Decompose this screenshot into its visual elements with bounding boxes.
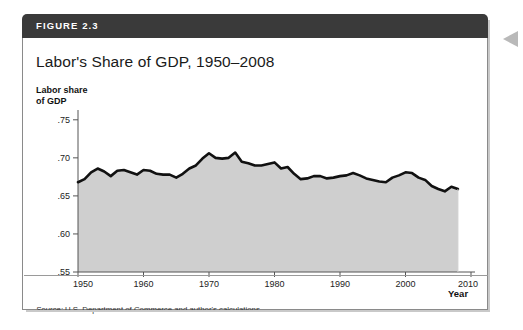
x-tick-label: 2000 [395, 279, 415, 289]
chart-area-fill [78, 153, 458, 272]
source-divider [24, 275, 488, 276]
figure-card: FIGURE 2.3 Labor's Share of GDP, 1950–20… [22, 14, 488, 310]
x-tick-label: 1970 [199, 279, 219, 289]
figure-header-band: FIGURE 2.3 [22, 14, 488, 38]
card-shadow-bottom [26, 310, 490, 312]
x-tick-label: 1960 [133, 279, 153, 289]
x-axis-title: Year [448, 288, 468, 299]
figure-number-label: FIGURE 2.3 [36, 20, 99, 31]
y-tick-label: .70 [57, 153, 70, 163]
plot-area: .55.60.65.70.751950196019701980199020002… [23, 38, 489, 310]
figure-body: Labor's Share of GDP, 1950–2008 Labor sh… [22, 38, 488, 310]
y-tick-label: .60 [57, 229, 70, 239]
page-next-arrow-icon[interactable] [503, 31, 518, 47]
x-tick-label: 1990 [330, 279, 350, 289]
x-tick-label: 1950 [73, 279, 93, 289]
card-shadow-right [488, 20, 490, 312]
labor-share-chart: .55.60.65.70.751950196019701980199020002… [23, 38, 489, 310]
y-tick-label: .65 [57, 191, 70, 201]
y-tick-label: .75 [57, 115, 70, 125]
x-tick-label: 1980 [264, 279, 284, 289]
